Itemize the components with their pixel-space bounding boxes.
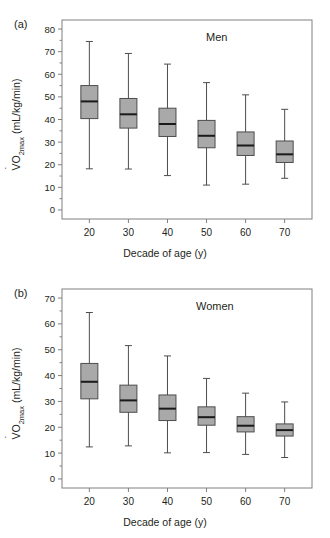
box-plot-20 bbox=[81, 41, 98, 168]
x-tick-label: 30 bbox=[123, 227, 135, 238]
box-plot-60 bbox=[237, 95, 254, 184]
x-tick-label: 60 bbox=[240, 227, 252, 238]
y-tick-label: 0 bbox=[50, 473, 55, 484]
y-tick-label: 30 bbox=[44, 137, 55, 148]
box-iqr bbox=[276, 141, 293, 162]
x-tick-label: 50 bbox=[201, 227, 213, 238]
panel-a-xlabel: Decade of age (y) bbox=[0, 247, 330, 259]
y-tick-label: 0 bbox=[50, 204, 55, 215]
box-plot-40 bbox=[159, 356, 176, 453]
x-tick-label: 50 bbox=[201, 496, 213, 507]
box-iqr bbox=[120, 385, 137, 412]
box-plot-50 bbox=[198, 83, 215, 185]
panel-a: (a) Men VO2max (mL/kg/min) 0102030405060… bbox=[0, 0, 330, 269]
plot-frame bbox=[62, 20, 312, 219]
box-plot-40 bbox=[159, 64, 176, 175]
y-tick-label: 60 bbox=[44, 318, 55, 329]
y-tick-label: 70 bbox=[44, 293, 55, 304]
y-tick-label: 60 bbox=[44, 69, 55, 80]
x-tick-label: 20 bbox=[84, 227, 96, 238]
y-tick-label: 20 bbox=[44, 159, 55, 170]
x-tick-label: 60 bbox=[240, 496, 252, 507]
x-tick-label: 70 bbox=[279, 227, 291, 238]
box-iqr bbox=[198, 407, 215, 425]
box-iqr bbox=[237, 132, 254, 156]
box-iqr bbox=[237, 417, 254, 432]
panel-a-plot: 01020304050607080203040506070 bbox=[0, 0, 330, 269]
y-tick-label: 50 bbox=[44, 344, 55, 355]
figure-box-plots: (a) Men VO2max (mL/kg/min) 0102030405060… bbox=[0, 0, 330, 538]
box-plot-70 bbox=[276, 109, 293, 178]
y-tick-label: 70 bbox=[44, 46, 55, 57]
box-plot-50 bbox=[198, 378, 215, 452]
plot-frame bbox=[62, 289, 312, 488]
y-tick-label: 50 bbox=[44, 91, 55, 102]
panel-b-plot: 010203040506070203040506070 bbox=[0, 269, 330, 538]
y-tick-label: 30 bbox=[44, 396, 55, 407]
x-tick-label: 30 bbox=[123, 496, 135, 507]
box-plot-60 bbox=[237, 393, 254, 454]
y-tick-label: 40 bbox=[44, 370, 55, 381]
box-iqr bbox=[198, 120, 215, 147]
x-tick-label: 40 bbox=[162, 496, 174, 507]
x-tick-label: 40 bbox=[162, 227, 174, 238]
x-tick-label: 20 bbox=[84, 496, 96, 507]
y-tick-label: 20 bbox=[44, 422, 55, 433]
box-plot-30 bbox=[120, 346, 137, 446]
box-iqr bbox=[159, 108, 176, 136]
panel-b-xlabel: Decade of age (y) bbox=[0, 516, 330, 528]
y-tick-label: 10 bbox=[44, 182, 55, 193]
panel-b: (b) Women VO2max (mL/kg/min) 01020304050… bbox=[0, 269, 330, 538]
box-plot-30 bbox=[120, 53, 137, 169]
y-tick-label: 10 bbox=[44, 448, 55, 459]
box-plot-20 bbox=[81, 313, 98, 447]
y-tick-label: 40 bbox=[44, 114, 55, 125]
y-tick-label: 80 bbox=[44, 24, 55, 35]
x-tick-label: 70 bbox=[279, 496, 291, 507]
box-plot-70 bbox=[276, 402, 293, 458]
box-iqr bbox=[120, 98, 137, 128]
